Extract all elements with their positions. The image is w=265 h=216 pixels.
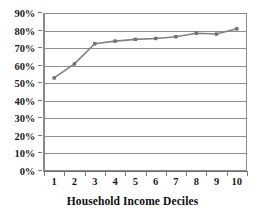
x-tick-label: 9 [214,176,219,187]
y-tick-mark [38,82,42,83]
y-tick-mark [38,30,42,31]
x-tick-mark [206,172,207,176]
x-axis-title: Household Income Deciles [0,195,265,207]
x-tick-mark [64,172,65,176]
x-tick-label: 7 [173,176,178,187]
line-chart: 0%10%20%30%40%50%60%70%80%90% 1234567891… [0,0,265,216]
x-tick-mark [105,172,106,176]
x-tick-label: 4 [112,176,117,187]
x-tick-label: 3 [92,176,97,187]
y-tick-mark [38,47,42,48]
y-tick-mark [38,12,42,13]
plot-area [44,13,247,171]
y-tick-label: 90% [15,8,35,19]
y-tick-mark [38,152,42,153]
gridline [45,118,246,119]
gridline [45,153,246,154]
y-tick-label: 40% [15,95,35,106]
gridline [45,136,246,137]
x-tick-mark [247,172,248,176]
y-tick-label: 70% [15,43,35,54]
x-tick-mark [125,172,126,176]
y-tick-mark [38,100,42,101]
gridline [45,101,246,102]
gridline [45,66,246,67]
x-tick-mark [146,172,147,176]
x-tick-label: 6 [153,176,158,187]
y-tick-label: 50% [15,78,35,89]
gridline [45,48,246,49]
y-tick-label: 10% [15,148,35,159]
y-tick-label: 60% [15,60,35,71]
gridline [45,83,246,84]
y-tick-mark [38,65,42,66]
y-tick-label: 30% [15,113,35,124]
x-tick-label: 10 [232,176,243,187]
y-tick-label: 80% [15,25,35,36]
y-axis: 0%10%20%30%40%50%60%70%80%90% [0,0,42,216]
y-tick-mark [38,135,42,136]
x-tick-mark [44,172,45,176]
x-tick-mark [227,172,228,176]
y-tick-mark [38,117,42,118]
x-tick-mark [85,172,86,176]
x-tick-label: 2 [72,176,77,187]
y-tick-label: 0% [20,166,35,177]
x-tick-label: 1 [52,176,57,187]
x-tick-label: 8 [194,176,199,187]
x-tick-label: 5 [133,176,138,187]
gridline [45,31,246,32]
y-tick-mark [38,170,42,171]
y-axis-line [43,13,44,172]
x-tick-mark [186,172,187,176]
x-tick-mark [166,172,167,176]
y-tick-label: 20% [15,130,35,141]
